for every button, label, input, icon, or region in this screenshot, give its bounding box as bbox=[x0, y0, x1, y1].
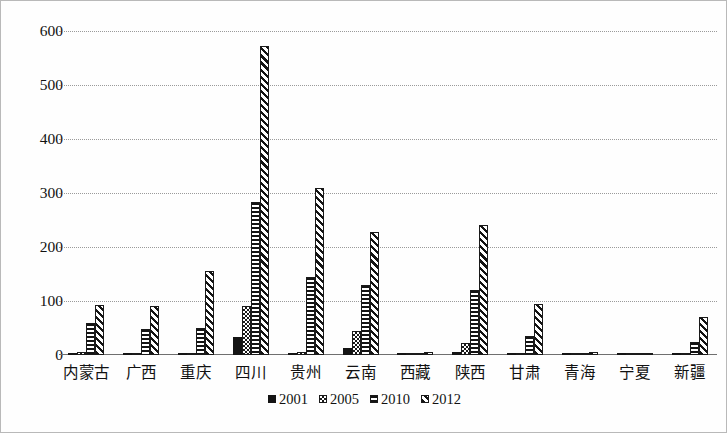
bar-group bbox=[59, 31, 114, 355]
bar[interactable] bbox=[507, 353, 516, 355]
chart-legend: 2001200520102012 bbox=[1, 392, 727, 407]
bar[interactable] bbox=[288, 353, 297, 355]
bar[interactable] bbox=[626, 353, 635, 355]
bar[interactable] bbox=[86, 323, 95, 355]
bar-group bbox=[498, 31, 553, 355]
legend-item[interactable]: 2010 bbox=[370, 392, 410, 407]
bar[interactable] bbox=[123, 353, 132, 355]
bar[interactable] bbox=[470, 290, 479, 355]
x-axis-category-label: 宁夏 bbox=[607, 359, 662, 387]
bar-group bbox=[443, 31, 498, 355]
plot-area bbox=[59, 31, 717, 355]
x-axis-category-label: 贵州 bbox=[278, 359, 333, 387]
y-axis-tick-label: 600 bbox=[9, 23, 63, 39]
x-axis-category-label: 新疆 bbox=[662, 359, 717, 387]
bar[interactable] bbox=[562, 353, 571, 355]
bar[interactable] bbox=[343, 348, 352, 355]
y-axis-tick-label: 500 bbox=[9, 77, 63, 93]
bar[interactable] bbox=[77, 352, 86, 355]
bar[interactable] bbox=[406, 353, 415, 355]
bar[interactable] bbox=[95, 305, 104, 355]
bar-group bbox=[662, 31, 717, 355]
bar[interactable] bbox=[415, 353, 424, 355]
x-axis-category-label: 甘肃 bbox=[498, 359, 553, 387]
bar[interactable] bbox=[672, 353, 681, 355]
legend-item[interactable]: 2005 bbox=[319, 392, 359, 407]
bar[interactable] bbox=[251, 202, 260, 355]
legend-swatch-icon bbox=[268, 395, 276, 403]
bar-group bbox=[278, 31, 333, 355]
bar[interactable] bbox=[178, 353, 187, 355]
y-axis-tick-label: 300 bbox=[9, 185, 63, 201]
bar[interactable] bbox=[196, 328, 205, 355]
bar[interactable] bbox=[132, 353, 141, 355]
bar[interactable] bbox=[452, 352, 461, 355]
bar[interactable] bbox=[150, 306, 159, 355]
y-axis-tick-label: 400 bbox=[9, 131, 63, 147]
bar[interactable] bbox=[589, 352, 598, 355]
bar[interactable] bbox=[205, 271, 214, 355]
bar-group bbox=[169, 31, 224, 355]
bar-group bbox=[552, 31, 607, 355]
bar[interactable] bbox=[479, 225, 488, 355]
legend-label: 2001 bbox=[279, 392, 308, 407]
y-axis-tick-label: 200 bbox=[9, 239, 63, 255]
legend-item[interactable]: 2012 bbox=[421, 392, 461, 407]
bar[interactable] bbox=[315, 188, 324, 355]
y-axis-tick-label: 100 bbox=[9, 293, 63, 309]
bar-group bbox=[223, 31, 278, 355]
bar[interactable] bbox=[233, 337, 242, 355]
chart-container: 0100200300400500600 内蒙古广西重庆四川贵州云南西藏陕西甘肃青… bbox=[0, 0, 727, 433]
legend-swatch-icon bbox=[370, 395, 378, 403]
x-axis-category-label: 云南 bbox=[333, 359, 388, 387]
bar[interactable] bbox=[681, 353, 690, 355]
x-axis-category-label: 广西 bbox=[114, 359, 169, 387]
x-axis-category-label: 四川 bbox=[223, 359, 278, 387]
legend-label: 2010 bbox=[381, 392, 410, 407]
bar[interactable] bbox=[370, 232, 379, 355]
bar[interactable] bbox=[580, 353, 589, 355]
bar-groups bbox=[59, 31, 717, 355]
bar[interactable] bbox=[516, 353, 525, 355]
bar[interactable] bbox=[306, 277, 315, 355]
bar[interactable] bbox=[361, 285, 370, 355]
bar[interactable] bbox=[690, 342, 699, 356]
legend-swatch-icon bbox=[319, 395, 327, 403]
legend-label: 2005 bbox=[330, 392, 359, 407]
bar[interactable] bbox=[525, 336, 534, 355]
x-axis-category-label: 内蒙古 bbox=[59, 359, 114, 387]
bar[interactable] bbox=[571, 353, 580, 355]
bar[interactable] bbox=[534, 304, 543, 355]
x-axis-category-label: 青海 bbox=[552, 359, 607, 387]
bar[interactable] bbox=[242, 306, 251, 355]
bar[interactable] bbox=[699, 317, 708, 355]
x-axis-category-label: 重庆 bbox=[169, 359, 224, 387]
bar[interactable] bbox=[461, 343, 470, 355]
legend-swatch-icon bbox=[421, 395, 429, 403]
bar-group bbox=[607, 31, 662, 355]
bar[interactable] bbox=[352, 331, 361, 355]
bar[interactable] bbox=[424, 352, 433, 355]
bar-group bbox=[388, 31, 443, 355]
bar[interactable] bbox=[260, 46, 269, 355]
bar[interactable] bbox=[644, 353, 653, 355]
legend-item[interactable]: 2001 bbox=[268, 392, 308, 407]
bar[interactable] bbox=[635, 353, 644, 355]
x-axis-category-label: 西藏 bbox=[388, 359, 443, 387]
x-axis-category-label: 陕西 bbox=[443, 359, 498, 387]
bar[interactable] bbox=[617, 353, 626, 355]
bar[interactable] bbox=[397, 353, 406, 355]
bar-group bbox=[333, 31, 388, 355]
bar[interactable] bbox=[187, 353, 196, 355]
y-axis-tick-label: 0 bbox=[9, 347, 63, 363]
legend-label: 2012 bbox=[432, 392, 461, 407]
bar[interactable] bbox=[297, 352, 306, 355]
bar[interactable] bbox=[68, 353, 77, 355]
x-axis-category-labels: 内蒙古广西重庆四川贵州云南西藏陕西甘肃青海宁夏新疆 bbox=[59, 359, 717, 387]
bar[interactable] bbox=[141, 329, 150, 355]
bar-group bbox=[114, 31, 169, 355]
